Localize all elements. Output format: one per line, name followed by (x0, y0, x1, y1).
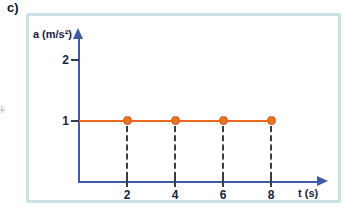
x-axis-label: t (s) (298, 187, 332, 200)
y-tick-mark (71, 59, 79, 61)
drop-line (126, 126, 128, 178)
data-point-marker (171, 116, 180, 125)
x-tick-mark (222, 178, 224, 187)
drop-line (270, 126, 272, 178)
figure-canvas: c) a (m/s²)t (s)122468 (0, 0, 357, 208)
x-axis-line (78, 181, 319, 183)
x-tick-mark (174, 178, 176, 187)
data-point-marker (267, 116, 276, 125)
x-axis-arrowhead (317, 176, 328, 186)
x-tick-label: 8 (260, 187, 282, 203)
plot-area: a (m/s²)t (s)122468 (0, 0, 357, 208)
y-axis-label: a (m/s²) (18, 28, 72, 41)
x-tick-label: 2 (116, 187, 138, 203)
y-tick-label: 1 (43, 113, 69, 129)
drop-line (174, 126, 176, 178)
x-tick-label: 6 (212, 187, 234, 203)
drop-line (222, 126, 224, 178)
y-tick-mark (71, 120, 79, 122)
y-axis-arrowhead (73, 28, 83, 39)
data-point-marker (123, 116, 132, 125)
data-point-marker (219, 116, 228, 125)
x-tick-mark (270, 178, 272, 187)
x-tick-label: 4 (164, 187, 186, 203)
x-tick-mark (126, 178, 128, 187)
y-tick-label: 2 (43, 52, 69, 68)
